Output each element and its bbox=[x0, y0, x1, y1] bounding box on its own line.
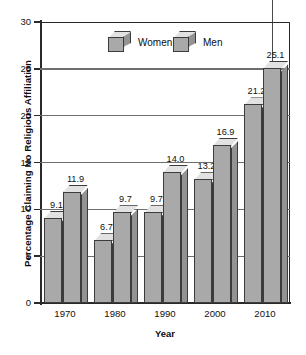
bar-chart: 051015202530 Percentage Claiming No Reli… bbox=[0, 0, 306, 355]
x-tick-label: 1990 bbox=[143, 308, 187, 319]
bar-value-label: 11.9 bbox=[55, 174, 96, 184]
bar-men-1980 bbox=[113, 205, 138, 303]
y-tick-mark bbox=[34, 21, 40, 23]
bar-men-1990 bbox=[163, 165, 188, 303]
gridline bbox=[40, 68, 290, 69]
bar-front-face bbox=[113, 212, 131, 303]
legend-label-women: Women bbox=[138, 37, 172, 48]
cube-swatch-women-icon bbox=[108, 31, 131, 52]
bar-side-face bbox=[181, 168, 188, 303]
bar-side-face bbox=[281, 64, 288, 303]
x-tick-label: 1980 bbox=[93, 308, 137, 319]
bar-men-2010 bbox=[263, 61, 288, 303]
bar-front-face bbox=[213, 145, 231, 303]
bar-men-2000 bbox=[213, 138, 238, 303]
x-tick-label: 1970 bbox=[43, 308, 87, 319]
cube-swatch-men-icon bbox=[173, 31, 196, 52]
bar-front-face bbox=[194, 179, 212, 303]
x-axis-title: Year bbox=[40, 328, 290, 339]
bar-front-face bbox=[63, 192, 81, 303]
bar-front-face bbox=[263, 68, 281, 303]
x-tick-label: 2010 bbox=[243, 308, 287, 319]
y-axis-title: Percentage Claiming No Religious Affilia… bbox=[22, 39, 33, 289]
bar-front-face bbox=[144, 212, 162, 303]
y-tick-mark bbox=[34, 255, 40, 257]
x-tick-label: 2000 bbox=[193, 308, 237, 319]
bar-front-face bbox=[44, 218, 62, 303]
y-tick-mark bbox=[34, 115, 40, 117]
bar-side-face bbox=[81, 188, 88, 303]
y-tick-label: 30 bbox=[0, 17, 31, 27]
bar-front-face bbox=[244, 104, 262, 303]
y-tick-label: 0 bbox=[0, 298, 31, 308]
bar-men-1970 bbox=[63, 185, 88, 303]
y-tick-mark bbox=[34, 162, 40, 164]
y-tick-mark bbox=[34, 302, 40, 304]
legend-label-men: Men bbox=[203, 37, 222, 48]
bar-value-label: 25.1 bbox=[255, 50, 296, 60]
bar-side-face bbox=[231, 141, 238, 303]
y-tick-mark bbox=[34, 68, 40, 70]
bar-front-face bbox=[163, 172, 181, 303]
bar-front-face bbox=[94, 240, 112, 303]
bar-side-face bbox=[131, 209, 138, 303]
bar-value-label: 16.9 bbox=[205, 127, 246, 137]
